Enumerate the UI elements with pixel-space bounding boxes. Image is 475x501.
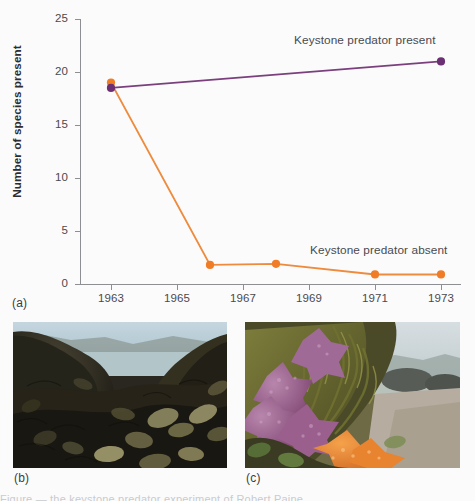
series-keystone-predator-present	[107, 57, 445, 92]
panel-caption-b: (b)	[14, 471, 29, 485]
data-point	[206, 261, 214, 269]
data-point	[371, 270, 379, 278]
data-point	[437, 270, 445, 278]
series-label-predator-absent: Keystone predator absent	[310, 243, 448, 257]
panel-caption-c: (c)	[246, 471, 261, 485]
data-point	[272, 260, 280, 268]
data-point	[437, 57, 445, 65]
chart-plot-area	[0, 0, 475, 315]
bottom-cut-text: Figure — the keystone predator experimen…	[0, 493, 475, 501]
series-label-predator-present: Keystone predator present	[294, 33, 436, 47]
series-line	[111, 61, 441, 88]
sea-star-photo	[245, 322, 460, 468]
chart-panel-a: Number of species present 25 20 15 10 5 …	[0, 0, 475, 315]
mussel-bed-photo	[13, 322, 227, 468]
panel-caption-a: (a)	[12, 296, 27, 310]
data-point	[107, 84, 115, 92]
